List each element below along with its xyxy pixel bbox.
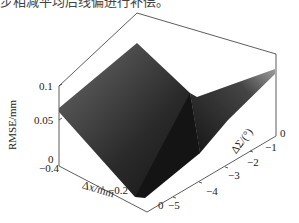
z-tick-0.05: 0.05: [34, 115, 53, 126]
y-tick-neg3: −3: [228, 170, 240, 181]
y-tick-neg4: −4: [206, 186, 218, 197]
z-axis-label: RMSE/mm: [6, 100, 18, 150]
y-tick-neg1: −1: [265, 142, 277, 153]
y-tick-0: 0: [280, 128, 286, 139]
surface-plot: [0, 0, 299, 223]
x-tick-neg0.4: −0.4: [39, 163, 59, 174]
z-tick-0.1: 0.1: [39, 81, 53, 92]
y-tick-neg5: −5: [168, 200, 180, 211]
rmse-surface: [59, 43, 275, 198]
x-tick-0: 0: [158, 200, 164, 211]
y-tick-neg2: −2: [247, 157, 259, 168]
